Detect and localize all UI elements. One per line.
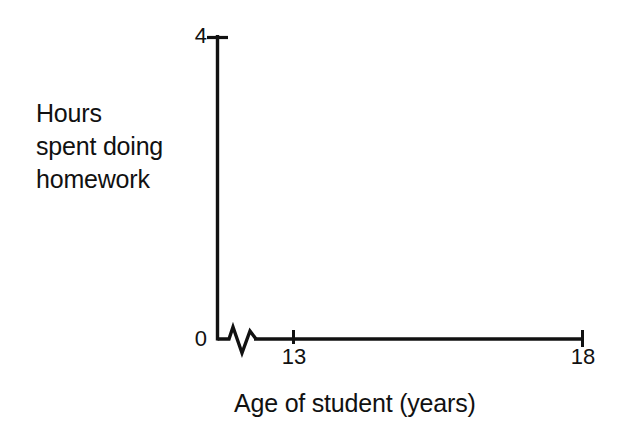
chart-figure: Hours spent doing homework Age of studen… (0, 0, 627, 445)
y-axis-title-line-1: Hours (36, 97, 196, 130)
y-axis-title: Hours spent doing homework (36, 97, 196, 196)
y-tick-label-4: 4 (185, 24, 207, 48)
y-axis-title-line-3: homework (36, 163, 196, 196)
y-tick-label-0: 0 (177, 327, 207, 351)
x-tick-label-18: 18 (567, 345, 599, 369)
x-axis-break-zigzag (218, 327, 257, 353)
x-axis-title: Age of student (years) (234, 388, 476, 418)
y-axis-title-line-2: spent doing (36, 130, 196, 163)
x-tick-label-13: 13 (278, 345, 310, 369)
chart-axes (0, 0, 627, 445)
